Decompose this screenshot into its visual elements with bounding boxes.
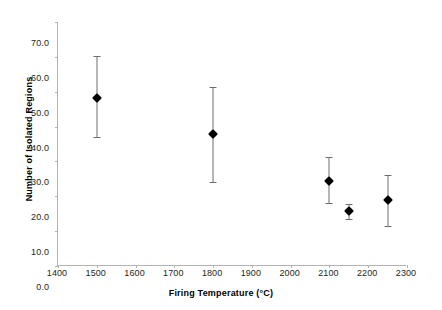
data-series [58, 22, 406, 265]
y-tick-label: 10.0 [31, 247, 49, 257]
x-tick-label: 2300 [396, 268, 416, 278]
x-tick-label: 1500 [86, 268, 106, 278]
data-marker [344, 206, 354, 216]
data-marker [208, 129, 218, 139]
x-axis-tick-labels: 1400150016001700180019002000210022002300 [0, 268, 442, 284]
y-tick-mark [55, 231, 58, 232]
x-tick-label: 1600 [124, 268, 144, 278]
error-bar-cap-lower [384, 226, 391, 227]
plot-area [57, 22, 406, 266]
y-tick-mark [55, 127, 58, 128]
error-bar-cap-upper [210, 87, 217, 88]
y-tick-mark [55, 161, 58, 162]
y-tick-mark [55, 196, 58, 197]
y-tick-mark [55, 22, 58, 23]
error-bar-cap-lower [326, 203, 333, 204]
error-bar-cap-upper [326, 157, 333, 158]
x-tick-label: 1700 [163, 268, 183, 278]
chart-container: 0.010.020.030.040.050.060.070.0 14001500… [0, 0, 442, 310]
y-tick-label: 70.0 [31, 38, 49, 48]
x-tick-label: 2200 [357, 268, 377, 278]
error-bar-cap-upper [93, 56, 100, 57]
x-axis-title: Firing Temperature (°C) [0, 288, 442, 298]
error-bar-cap-lower [210, 182, 217, 183]
data-marker [92, 93, 102, 103]
y-tick-mark [55, 92, 58, 93]
x-tick-label: 2000 [279, 268, 299, 278]
x-tick-label: 1400 [47, 268, 67, 278]
x-tick-label: 2100 [318, 268, 338, 278]
data-marker [383, 195, 393, 205]
y-tick-mark [55, 57, 58, 58]
error-bar-cap-lower [93, 137, 100, 138]
error-bar-cap-upper [384, 175, 391, 176]
x-tick-label: 1900 [241, 268, 261, 278]
x-tick-label: 1800 [202, 268, 222, 278]
error-bar-cap-lower [345, 219, 352, 220]
y-axis-title: Number of Isolated Regions [24, 54, 34, 224]
data-marker [324, 176, 334, 186]
